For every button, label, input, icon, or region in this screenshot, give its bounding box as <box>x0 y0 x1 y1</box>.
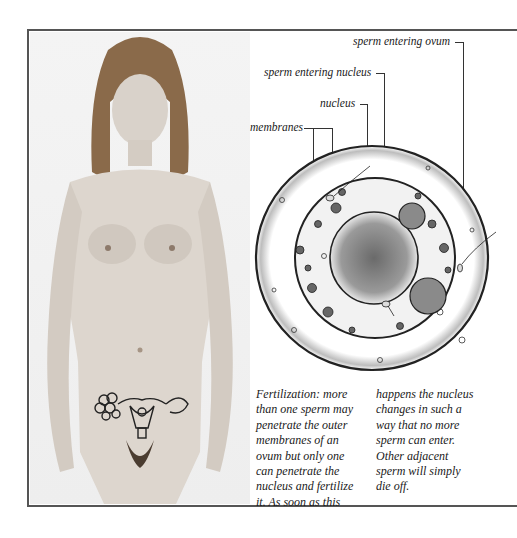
leader-ovum-h <box>455 42 463 43</box>
caption-column-1: Fertilization: more than one sperm may p… <box>256 387 356 510</box>
caption-line: sperm can enter. <box>376 433 476 448</box>
caption-line: membranes of an <box>256 433 356 448</box>
caption-line: happens the nucleus <box>376 387 476 402</box>
label-sperm-entering-nucleus: sperm entering nucleus <box>264 67 371 79</box>
caption-line: can penetrate the <box>256 464 356 479</box>
caption-line: penetrate the outer <box>256 418 356 433</box>
label-membranes: membranes <box>250 122 303 134</box>
caption-line: Other adjacent <box>376 449 476 464</box>
caption-line: it. As soon as this <box>256 495 356 510</box>
label-sperm-entering-ovum: sperm entering ovum <box>353 36 450 48</box>
caption-line: die off. <box>376 479 476 494</box>
leader-membranes-h <box>304 128 332 129</box>
caption-line: ovum but only one <box>256 449 356 464</box>
body-silhouette-icon <box>30 32 250 504</box>
ovum-diagram <box>252 140 502 380</box>
leader-nucleus-h <box>360 104 367 105</box>
caption-line: than one sperm may <box>256 402 356 417</box>
label-nucleus: nucleus <box>320 98 355 110</box>
figure-photo <box>30 32 250 504</box>
leader-sperm-nucleus-h <box>376 73 384 74</box>
caption-line: changes in such a <box>376 402 476 417</box>
caption-line: nucleus and fertilize <box>256 479 356 494</box>
caption-line: way that no more <box>376 418 476 433</box>
caption-column-2: happens the nucleus changes in such a wa… <box>376 387 476 495</box>
caption-line: sperm will simply <box>376 464 476 479</box>
caption-line: Fertilization: more <box>256 387 356 402</box>
